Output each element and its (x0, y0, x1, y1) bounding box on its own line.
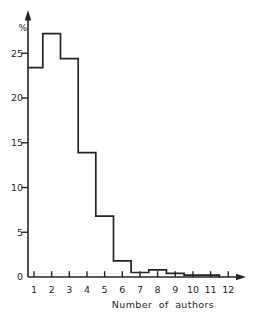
x-tick-label: 4 (84, 284, 90, 295)
x-tick-label: 2 (49, 284, 55, 295)
x-tick-label: 6 (119, 284, 125, 295)
x-tick-label: 1 (31, 284, 37, 295)
y-tick-label: 25 (11, 48, 23, 59)
x-tick-label: 7 (137, 284, 143, 295)
y-tick-label: 10 (11, 182, 23, 193)
x-tick-label: 11 (205, 284, 217, 295)
authors-histogram-chart: 0510152025123456789101112%Number of auth… (0, 0, 257, 324)
x-axis-title: Number of authors (112, 299, 214, 310)
x-tick-label: 10 (187, 284, 199, 295)
y-tick-label: 20 (11, 92, 23, 103)
y-tick-label: 15 (11, 137, 23, 148)
x-tick-label: 3 (66, 284, 72, 295)
figure-page: 0510152025123456789101112%Number of auth… (0, 0, 257, 324)
y-axis-unit-label: % (18, 23, 27, 33)
x-tick-label: 12 (222, 284, 234, 295)
x-tick-label: 5 (102, 284, 108, 295)
y-axis-arrow-icon (25, 10, 32, 21)
x-tick-label: 8 (155, 284, 161, 295)
x-axis-arrow-icon (236, 274, 246, 281)
histogram-step-outline (28, 34, 219, 277)
y-tick-label: 5 (17, 227, 23, 238)
x-tick-label: 9 (172, 284, 178, 295)
y-tick-label: 0 (17, 271, 23, 282)
